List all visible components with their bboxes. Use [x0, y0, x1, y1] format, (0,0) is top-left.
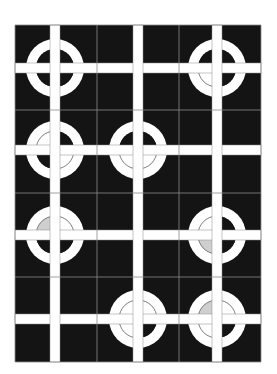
- board-canvas: [0, 0, 277, 374]
- vertical-bar-0: [50, 25, 60, 362]
- vertical-bar-2: [212, 25, 222, 362]
- puzzle-board: [0, 0, 277, 374]
- vertical-bar-1: [133, 25, 143, 362]
